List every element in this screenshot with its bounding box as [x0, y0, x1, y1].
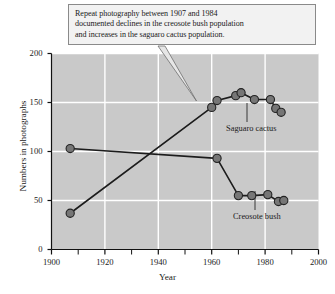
- y-tick-label: 100: [17, 146, 43, 156]
- data-point-saguaro-cactus: [250, 95, 258, 103]
- y-tick-label: 200: [17, 48, 43, 58]
- data-point-creosote-bush: [66, 144, 74, 152]
- data-point-saguaro-cactus: [237, 89, 245, 97]
- x-axis-title: Year: [0, 272, 335, 282]
- x-tick-label: 1900: [35, 257, 69, 267]
- data-point-saguaro-cactus: [277, 108, 285, 116]
- data-point-creosote-bush: [248, 192, 256, 200]
- data-point-saguaro-cactus: [266, 95, 274, 103]
- callout-line-2: documented declines in the creosote bush…: [75, 19, 310, 29]
- y-tick-label: 50: [17, 195, 43, 205]
- data-point-creosote-bush: [264, 191, 272, 199]
- data-point-creosote-bush: [280, 196, 288, 204]
- series-label-creosote-bush: Creosote bush: [233, 212, 281, 221]
- x-tick-label: 1940: [141, 257, 175, 267]
- x-tick-label: 1980: [248, 257, 282, 267]
- callout-line-1: Repeat photography between 1907 and 1984: [75, 9, 310, 19]
- figure: Repeat photography between 1907 and 1984…: [0, 0, 335, 294]
- x-tick-label: 2000: [302, 257, 335, 267]
- callout-annotation: Repeat photography between 1907 and 1984…: [68, 4, 316, 45]
- y-tick-label: 150: [17, 97, 43, 107]
- callout-line-3: and increases in the saguaro cactus popu…: [75, 30, 310, 40]
- data-point-saguaro-cactus: [66, 209, 74, 217]
- series-label-saguaro-cactus: Saguaro cactus: [226, 124, 276, 133]
- y-tick-label: 0: [17, 244, 43, 254]
- x-tick-label: 1960: [195, 257, 229, 267]
- x-tick-label: 1920: [88, 257, 122, 267]
- data-point-saguaro-cactus: [208, 103, 216, 111]
- data-point-saguaro-cactus: [213, 96, 221, 104]
- data-point-creosote-bush: [213, 154, 221, 162]
- data-point-creosote-bush: [234, 192, 242, 200]
